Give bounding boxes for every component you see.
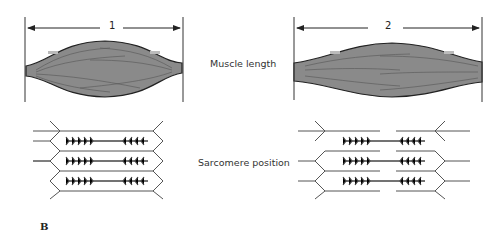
sarcomere-position-label: Sarcomere position (198, 157, 290, 168)
length-label-1: 1 (109, 20, 115, 31)
muscle-1 (25, 17, 183, 102)
panel-label: B (40, 221, 48, 232)
diagram-canvas (0, 0, 501, 239)
length-label-2: 2 (385, 20, 391, 31)
muscle-length-label: Muscle length (210, 58, 276, 69)
sarcomere-2 (298, 121, 470, 199)
